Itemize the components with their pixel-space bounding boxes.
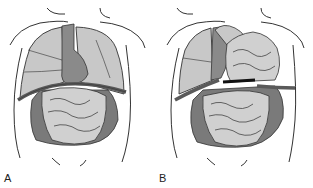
- figure: A: [0, 0, 313, 188]
- panel-label-b: B: [159, 172, 166, 184]
- panel-label-a: A: [4, 172, 11, 184]
- anatomy-hernia-illustration: [157, 0, 313, 188]
- panel-b: B: [157, 0, 313, 188]
- anatomy-normal-illustration: [0, 0, 156, 188]
- panel-a: A: [0, 0, 156, 188]
